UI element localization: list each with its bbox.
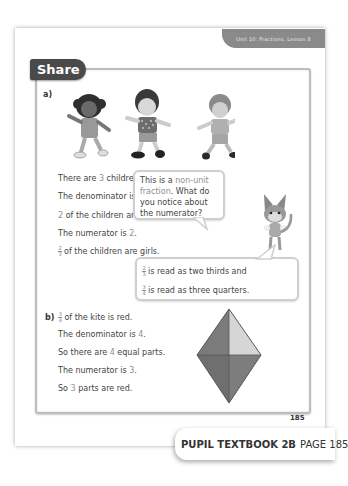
footer-book-badge: PUPIL TEXTBOOK 2B PAGE 185 — [175, 428, 335, 460]
bubble-line-three-quarters: 34is read as three quarters. — [142, 281, 292, 300]
children-illustration — [45, 78, 235, 163]
girl-2-figure — [127, 89, 169, 159]
part-b-label: b) — [45, 313, 54, 322]
speech-bubble-non-unit: This is a non-unit fraction. What do you… — [133, 170, 225, 220]
part-a-line-4: The numerator is 2. — [58, 229, 137, 238]
kite-diagram — [196, 308, 262, 404]
speech-bubble-reading: 23is read as two thirds and 34is read as… — [135, 257, 299, 301]
bubble-tail-icon — [193, 217, 209, 231]
bubble-line-two-thirds: 23is read as two thirds and — [142, 262, 292, 281]
fraction-three-quarters: 34 — [58, 312, 62, 323]
footer-book-title: PUPIL TEXTBOOK 2B — [181, 439, 296, 450]
unit-lesson-tab: Unit 10: Fractions, Lesson 8 — [222, 29, 325, 48]
part-a-fraction-line: 23of the children are girls. — [58, 246, 160, 257]
fraction-two-thirds: 23 — [58, 246, 62, 257]
part-b-line-3: The numerator is 3. — [58, 366, 137, 375]
textbook-page: Unit 10: Fractions, Lesson 8 Share a) — [15, 28, 325, 446]
part-a-line-1: There are 3 children. — [58, 174, 141, 183]
part-b-line-2: So there are 4 equal parts. — [58, 348, 165, 357]
part-b-fraction-line: b)34of the kite is red. — [45, 312, 132, 323]
bubble-tail-icon-2 — [255, 244, 277, 260]
footer-page: PAGE 185 — [300, 439, 348, 450]
section-title: Share — [30, 59, 86, 80]
page-number: 185 — [290, 414, 305, 422]
part-b-line-4: So 3 parts are red. — [58, 384, 132, 393]
boy-figure — [199, 94, 235, 160]
girl-1-figure — [69, 94, 109, 158]
part-b-line-1: The denominator is 4. — [58, 330, 146, 339]
